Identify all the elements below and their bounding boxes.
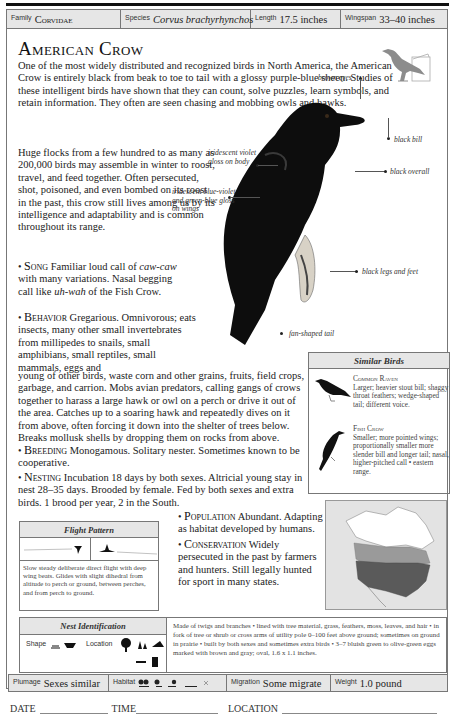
weight-label: Weight	[335, 678, 357, 685]
song-call-2: uh-wah	[54, 286, 86, 297]
nesting-text: Incubation 18 days by both sexes. Altric…	[18, 472, 302, 508]
length-label: Length	[255, 14, 276, 21]
breeding-section: • Breeding Monogamous. Solitary nester. …	[18, 444, 308, 470]
crow-illustration	[205, 95, 405, 355]
migration-value: Some migrate	[263, 678, 322, 689]
footer-bar: Plumage Sexes similar Habitat Migration …	[8, 674, 448, 692]
song-call-1: caw-caw	[139, 261, 176, 272]
population-heading: Population	[184, 509, 236, 523]
similar-bird-raven: Common Raven Larger; heavier stout bill;…	[353, 375, 449, 409]
pointer-dot	[280, 332, 283, 335]
fish-crow-icon	[317, 431, 347, 471]
similar-bird-desc: Larger; heavier stout bill; shaggy throa…	[353, 384, 449, 410]
date-field[interactable]	[40, 704, 108, 714]
flight-pattern-panel: Flight Pattern Slow steady deliberate di…	[19, 521, 159, 611]
flight-pattern-desc: Slow steady deliberate direct flight wit…	[20, 561, 158, 600]
annotation-overall: black overall	[390, 168, 429, 177]
pointer-line	[355, 171, 385, 172]
nest-identification-panel: Nest Identification Shape Location	[19, 617, 167, 673]
flight-pattern-heading: Flight Pattern	[20, 522, 158, 538]
habitat-icons	[138, 678, 213, 688]
annotation-bill: black bill	[394, 136, 422, 145]
pointer-dot	[384, 170, 387, 173]
plumage-value: Sexes similar	[44, 678, 100, 689]
similar-birds-heading: Similar Birds	[309, 353, 449, 369]
nest-identification-heading: Nest Identification	[20, 618, 166, 635]
nesting-section: • Nesting Incubation 18 days by both sex…	[18, 471, 308, 509]
habitat-label: Habitat	[113, 678, 135, 685]
family-cell: Family Corvidae	[7, 10, 121, 28]
annotation-eyes: brown eyes	[318, 74, 352, 83]
annotation-tail: fan-shaped tail	[289, 330, 334, 339]
nest-icons-row: Shape Location	[20, 635, 166, 673]
weight-cell: Weight 1.0 pound	[331, 675, 447, 691]
length-cell: Length 17.5 inches	[251, 10, 341, 28]
annotation-body-gloss: iridescent violet gloss on body	[208, 149, 268, 166]
species-cell: Species Corvus brachyrhynchos	[121, 10, 251, 28]
plumage-label: Plumage	[13, 678, 41, 685]
location-label: Location	[86, 640, 112, 647]
time-field[interactable]	[136, 704, 218, 714]
nest-shape-icon	[50, 640, 78, 650]
pointer-line	[258, 165, 278, 166]
flight-diagram-1	[20, 538, 91, 560]
flapping-flight-icon	[20, 538, 90, 561]
population-section: • Population Abundant. Adapting as habit…	[178, 510, 323, 536]
raven-icon	[315, 377, 351, 403]
weight-value: 1.0 pound	[360, 678, 402, 689]
north-america-map	[326, 501, 446, 609]
migration-cell: Migration Some migrate	[227, 675, 331, 691]
range-map	[325, 500, 447, 610]
top-rule	[6, 3, 449, 6]
plumage-cell: Plumage Sexes similar	[9, 675, 109, 691]
nesting-heading: Nesting	[24, 470, 61, 484]
length-value: 17.5 inches	[279, 14, 327, 25]
family-value: Corvidae	[35, 14, 73, 25]
nest-location-icons	[120, 637, 166, 671]
similar-bird-name: Common Raven	[353, 375, 449, 384]
song-section: • Song Familiar loud call of caw-caw wit…	[18, 260, 178, 298]
similar-bird-desc: Smaller; more pointed wings; proportiona…	[353, 434, 449, 477]
gliding-flight-icon	[91, 538, 161, 561]
song-heading: Song	[24, 259, 48, 273]
conservation-section: • Conservation Widely persecuted in the …	[178, 538, 323, 589]
time-label: TIME	[112, 703, 136, 714]
location-field[interactable]	[282, 704, 437, 714]
species-label: Species	[125, 14, 150, 21]
migration-label: Migration	[231, 678, 260, 685]
flight-pattern-diagrams	[20, 538, 158, 561]
shape-label: Shape	[26, 640, 46, 647]
pointer-dot	[355, 270, 358, 273]
song-text-c: of the Fish Crow.	[88, 286, 161, 297]
population-conservation: • Population Abundant. Adapting as habit…	[178, 510, 323, 588]
pointer-line	[330, 271, 358, 272]
flight-diagram-2	[91, 538, 161, 560]
family-label: Family	[11, 14, 32, 21]
similar-birds-panel: Similar Birds Common Raven Larger; heavi…	[308, 352, 450, 494]
annotation-legs: black legs and feet	[362, 268, 418, 277]
page-title: American Crow	[18, 38, 143, 60]
wingspan-cell: Wingspan 33–40 inches	[341, 10, 447, 28]
similar-bird-name: Fish Crow	[353, 425, 449, 434]
habitat-cell: Habitat	[109, 675, 227, 691]
wingspan-value: 33–40 inches	[379, 14, 435, 25]
date-label: DATE	[10, 703, 36, 714]
behavior-section-wide: young of other birds, waste corn and oth…	[18, 370, 308, 444]
header-bar: Family Corvidae Species Corvus brachyrhy…	[6, 9, 448, 29]
species-value: Corvus brachyrhynchos	[153, 14, 253, 25]
sighting-log: DATE TIME LOCATION	[10, 703, 450, 714]
annotation-wing-gloss: iridescent blue-violet and green-blue gl…	[172, 188, 242, 214]
behavior-heading: Behavior	[24, 310, 67, 324]
similar-bird-fish-crow: Fish Crow Smaller; more pointed wings; p…	[353, 425, 449, 477]
breeding-heading: Breeding	[24, 443, 67, 457]
song-text-a: Familiar loud call of	[51, 261, 137, 272]
behavior-section-narrow: • Behavior Gregarious. Omnivorous; eats …	[18, 311, 198, 374]
pointer-line	[388, 118, 389, 138]
wingspan-label: Wingspan	[345, 14, 376, 21]
pointer-line	[360, 79, 361, 99]
conservation-heading: Conservation	[184, 537, 246, 551]
behavior-text-wide: young of other birds, waste corn and oth…	[18, 370, 304, 443]
nest-identification-desc: Made of twigs and branches • lined with …	[167, 617, 447, 673]
pointer-line	[230, 197, 260, 198]
location-label: LOCATION	[228, 703, 278, 714]
